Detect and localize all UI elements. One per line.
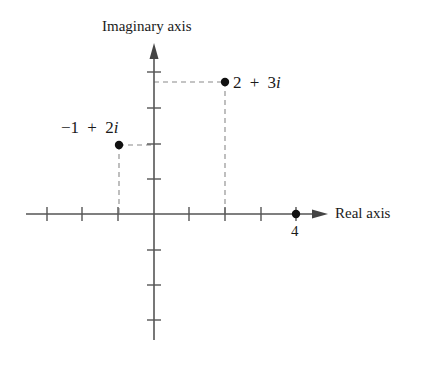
imaginary-axis-label-text: Imaginary axis: [102, 18, 192, 34]
imaginary-axis-arrow-icon: [150, 43, 159, 59]
complex-plane-diagram: Imaginary axis Real axis −1 + 2i 2 + 3i …: [0, 0, 429, 365]
point-label-p2-imag-unit: i: [276, 73, 281, 92]
real-tick-label-4-text: 4: [291, 223, 299, 239]
point-p2-dot: [221, 78, 229, 86]
point-label-p1: −1 + 2i: [61, 119, 118, 136]
point-label-p2-text: 2 + 3: [233, 73, 276, 92]
point-label-p1-imag-unit: i: [114, 118, 119, 137]
real-axis-label-text: Real axis: [335, 205, 390, 221]
real-tick-label-4: 4: [291, 224, 299, 239]
point-p3-dot: [292, 210, 300, 218]
point-p1-dot: [115, 141, 123, 149]
dashed-guides-p2: [154, 82, 225, 214]
complex-plane-svg: [0, 0, 429, 365]
real-axis-arrow-icon: [312, 210, 328, 219]
imaginary-axis-label: Imaginary axis: [102, 19, 192, 34]
real-axis-label: Real axis: [335, 206, 390, 221]
point-label-p1-text: −1 + 2: [61, 118, 114, 137]
point-label-p2: 2 + 3i: [233, 74, 281, 91]
